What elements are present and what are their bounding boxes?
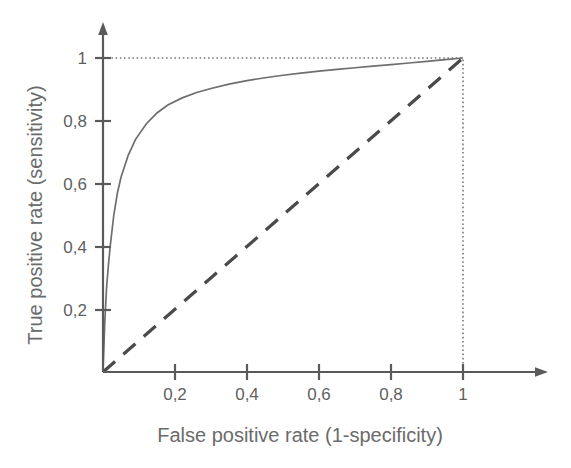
y-tick-label-0.2: 0,2 <box>63 301 87 320</box>
x-tick-label-0.8: 0,8 <box>379 385 403 404</box>
x-axis-title: False positive rate (1-specificity) <box>157 424 443 446</box>
x-tick-label-1: 1 <box>458 385 467 404</box>
x-tick-label-0.6: 0,6 <box>307 385 331 404</box>
x-tick-label-0.2: 0,2 <box>163 385 187 404</box>
y-axis-title: True positive rate (sensitivity) <box>24 85 46 344</box>
y-tick-label-0.8: 0,8 <box>63 112 87 131</box>
figure-background <box>0 0 571 468</box>
y-tick-label-1: 1 <box>78 49 87 68</box>
x-tick-label-0.4: 0,4 <box>235 385 259 404</box>
y-tick-label-0.4: 0,4 <box>63 238 87 257</box>
roc-curve-figure: 1 0,8 0,6 0,4 0,2 0,2 0,4 0,6 0,8 1 Fals… <box>0 0 571 468</box>
y-tick-label-0.6: 0,6 <box>63 175 87 194</box>
